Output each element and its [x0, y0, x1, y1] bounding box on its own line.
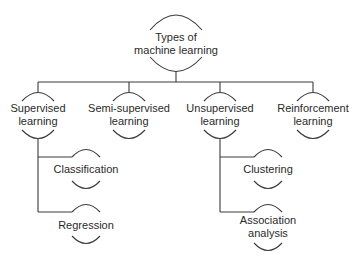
node-label: Unsupervised: [186, 102, 253, 115]
node-label: Regression: [58, 219, 114, 232]
node-label: learning: [10, 115, 65, 128]
root-arc-top: [150, 15, 202, 30]
node-semi-supervised-learning: Semi-supervised learning: [88, 102, 170, 128]
node-label: Reinforcement: [277, 102, 349, 115]
node-label: machine learning: [134, 44, 218, 57]
node-label: Semi-supervised: [88, 102, 170, 115]
node-label: learning: [186, 115, 253, 128]
node-supervised-learning: Supervised learning: [10, 102, 65, 128]
node-label: Association: [240, 214, 296, 227]
node-association-analysis: Association analysis: [240, 214, 296, 240]
node-reinforcement-learning: Reinforcement learning: [277, 102, 349, 128]
node-label: Clustering: [243, 163, 293, 176]
node-clustering: Clustering: [243, 163, 293, 176]
node-classification: Classification: [54, 163, 119, 176]
node-label: learning: [88, 115, 170, 128]
node-regression: Regression: [58, 219, 114, 232]
node-label: Types of: [134, 31, 218, 44]
node-label: Classification: [54, 163, 119, 176]
node-types-of-ml: Types of machine learning: [134, 31, 218, 57]
node-label: analysis: [240, 227, 296, 240]
node-label: Supervised: [10, 102, 65, 115]
node-unsupervised-learning: Unsupervised learning: [186, 102, 253, 128]
node-label: learning: [277, 115, 349, 128]
root-arc-bottom: [150, 57, 202, 72]
